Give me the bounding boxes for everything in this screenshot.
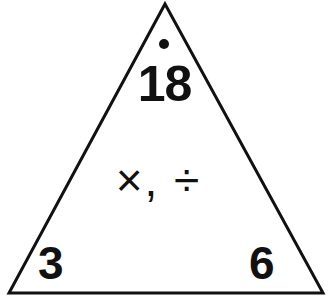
product-value: 18 [0,59,331,109]
factor-right-value: 6 [249,240,275,286]
factor-left-value: 3 [38,240,64,286]
dot-marker-icon [159,39,169,49]
fact-family-triangle-card: 18 ×, ÷ 3 6 [0,0,333,305]
operators-label: ×, ÷ [0,157,325,203]
